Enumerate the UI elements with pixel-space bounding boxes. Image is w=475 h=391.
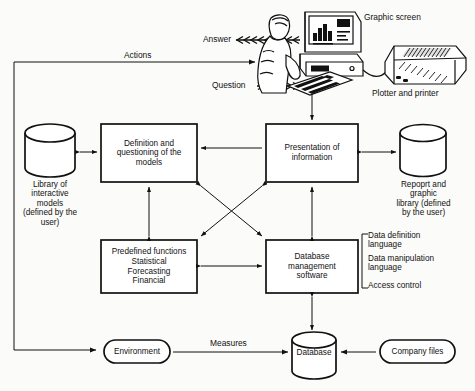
edge-label-answer: Answer [203,34,231,44]
illustration-label-graphic-screen: Graphic screen [364,12,421,22]
box-predefined-label: Predefined functions Statistical Forecas… [101,240,197,293]
box-dbms-label: Database management software [266,240,358,293]
box-definition-label: Definition and questioning of the models [101,124,197,182]
cylinder-model-library [25,124,75,177]
cylinder-model-library-label: Library of interactive models (defined b… [2,180,98,227]
illustration-label-plotter-printer: Plotter and printer [372,88,439,98]
diagram-canvas: Definition and questioning of the models… [0,0,475,391]
edge-label-actions: Actions [124,50,151,60]
cylinder-database-label: Database [285,348,343,357]
dbms-feature-access-control: Access control [368,281,473,290]
illustration-person-head [269,15,290,40]
cylinder-report-library [400,125,446,177]
illustration-cable [363,70,386,76]
dbms-feature-data-definition: Data definition language [368,231,473,250]
illustration-workstation [258,12,466,95]
node-environment-label: Environment [104,340,170,363]
edge-label-measures: Measures [210,338,247,348]
node-company-files-label: Company files [380,340,455,363]
illustration-plotter [385,46,466,84]
edge-label-question: Question [212,80,246,90]
cylinder-report-library-label: Repoprt and graphic library (defined by … [374,180,473,218]
box-presentation-label: Presentation of information [266,124,358,182]
dbms-feature-data-manipulation: Data manipulation language [368,254,473,273]
